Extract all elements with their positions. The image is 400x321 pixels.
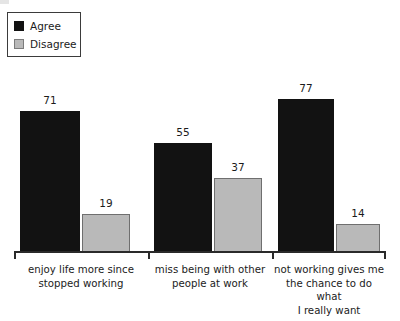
bar-agree-2[interactable] bbox=[278, 99, 334, 252]
category-label-1: miss being with other people at work bbox=[148, 263, 272, 317]
chart-legend: Agree Disagree bbox=[7, 12, 81, 57]
legend-label-disagree: Disagree bbox=[30, 39, 77, 50]
bar-groups: 71 19 55 37 77 14 bbox=[14, 60, 386, 252]
scan-artifact bbox=[0, 0, 9, 4]
category-label-2: not working gives me the chance to do wh… bbox=[272, 263, 386, 317]
bar-slot-disagree-0: 19 bbox=[82, 60, 130, 252]
bar-value-agree-0: 71 bbox=[20, 95, 80, 106]
legend-item-disagree: Disagree bbox=[14, 35, 80, 53]
bar-value-disagree-2: 14 bbox=[336, 208, 380, 219]
bar-group-0: 71 19 bbox=[14, 60, 148, 252]
bar-agree-0[interactable] bbox=[20, 111, 80, 252]
bar-disagree-1[interactable] bbox=[214, 178, 262, 252]
category-label-1-line-0: miss being with other bbox=[150, 263, 270, 277]
bar-value-agree-2: 77 bbox=[278, 83, 334, 94]
category-captions: enjoy life more since stopped working mi… bbox=[14, 263, 386, 317]
bar-slot-agree-0: 71 bbox=[20, 60, 80, 252]
bar-disagree-2[interactable] bbox=[336, 224, 380, 252]
bar-disagree-0[interactable] bbox=[82, 214, 130, 252]
category-label-2-line-1: the chance to do what bbox=[274, 277, 384, 304]
category-label-0: enjoy life more since stopped working bbox=[14, 263, 148, 317]
bar-slot-agree-1: 55 bbox=[154, 60, 212, 252]
bar-agree-1[interactable] bbox=[154, 143, 212, 252]
x-axis-tick-1 bbox=[148, 251, 150, 259]
x-axis-line bbox=[14, 251, 386, 253]
x-axis-tick-right bbox=[384, 251, 386, 259]
bar-slot-agree-2: 77 bbox=[278, 60, 334, 252]
legend-label-agree: Agree bbox=[30, 21, 61, 32]
category-label-0-line-1: stopped working bbox=[16, 277, 146, 291]
category-label-0-line-0: enjoy life more since bbox=[16, 263, 146, 277]
bar-group-2: 77 14 bbox=[272, 60, 386, 252]
category-label-1-line-1: people at work bbox=[150, 277, 270, 291]
agree-swatch-icon bbox=[14, 21, 24, 31]
category-label-2-line-0: not working gives me bbox=[274, 263, 384, 277]
bar-slot-disagree-2: 14 bbox=[336, 60, 380, 252]
category-label-2-line-2: I really want bbox=[274, 304, 384, 318]
x-axis-tick-left bbox=[14, 251, 16, 259]
bar-value-disagree-1: 37 bbox=[214, 162, 262, 173]
x-axis-tick-2 bbox=[272, 251, 274, 259]
bar-slot-disagree-1: 37 bbox=[214, 60, 262, 252]
bar-group-1: 55 37 bbox=[148, 60, 272, 252]
disagree-swatch-icon bbox=[14, 39, 24, 49]
grouped-bar-chart: Agree Disagree 71 19 55 37 bbox=[0, 0, 400, 321]
legend-item-agree: Agree bbox=[14, 17, 80, 35]
bar-value-disagree-0: 19 bbox=[82, 198, 130, 209]
bar-value-agree-1: 55 bbox=[154, 127, 212, 138]
